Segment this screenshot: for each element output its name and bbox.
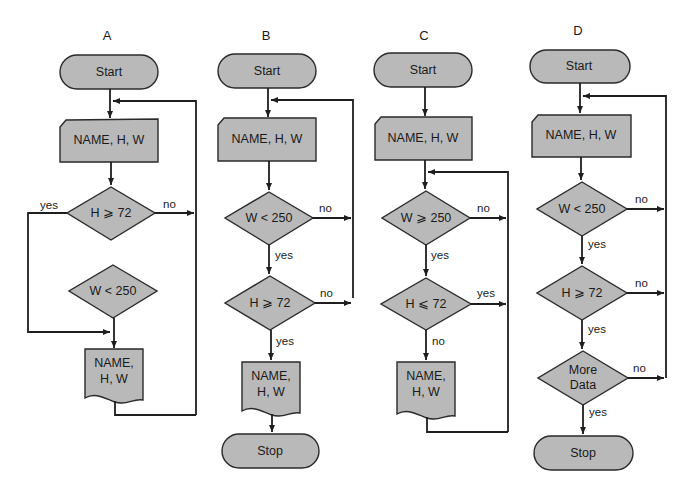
- flowchart-c-title: C: [419, 28, 428, 43]
- decision-label: W < 250: [90, 284, 137, 298]
- no-label: no: [635, 277, 648, 289]
- flowchart-b: B Start NAME, H, W W < 250 no yes H ⩾ 72…: [218, 28, 353, 468]
- return-line: [427, 417, 508, 432]
- flowchart-d: D Start NAME, H, W W < 250 no yes H ⩾ 72…: [530, 23, 666, 470]
- output-label-line2: H, W: [412, 385, 440, 399]
- output-label-line1: NAME,: [251, 369, 291, 383]
- no-label: no: [319, 202, 332, 214]
- flowchart-canvas: A Start NAME, H, W H ⩾ 72 yes no W < 250…: [0, 0, 694, 493]
- yes-label: yes: [589, 406, 607, 418]
- decision-label: H ⩾ 72: [91, 206, 132, 220]
- flowchart-d-title: D: [573, 23, 582, 38]
- no-label: no: [320, 287, 333, 299]
- no-label: no: [633, 362, 646, 374]
- flowchart-a: A Start NAME, H, W H ⩾ 72 yes no W < 250…: [28, 28, 196, 415]
- yes-label: yes: [588, 323, 606, 335]
- decision-label-line2: Data: [570, 378, 596, 392]
- input-label: NAME, H, W: [388, 131, 459, 145]
- output-label-line2: H, W: [100, 372, 128, 386]
- output-label-line1: NAME,: [406, 369, 446, 383]
- decision-label: W < 250: [246, 211, 293, 225]
- input-label: NAME, H, W: [232, 132, 303, 146]
- stop-label: Stop: [570, 446, 596, 460]
- output-label-line2: H, W: [257, 385, 285, 399]
- output-label-line1: NAME,: [94, 356, 134, 370]
- start-label: Start: [254, 64, 281, 78]
- decision-label: W ⩾ 250: [401, 211, 452, 225]
- stop-label: Stop: [257, 444, 283, 458]
- no-label: no: [163, 198, 176, 210]
- yes-label: yes: [275, 249, 293, 261]
- start-label: Start: [410, 63, 437, 77]
- flowchart-b-title: B: [262, 28, 271, 43]
- yes-label: yes: [276, 335, 294, 347]
- return-line: [115, 401, 196, 415]
- no-label: no: [635, 193, 648, 205]
- input-label: NAME, H, W: [74, 133, 145, 147]
- flowchart-a-title: A: [103, 28, 112, 43]
- start-label: Start: [566, 59, 593, 73]
- decision-label: H ⩾ 72: [250, 296, 291, 310]
- yes-label: yes: [40, 199, 58, 211]
- no-label: no: [432, 335, 445, 347]
- no-label: no: [477, 202, 490, 214]
- decision-label-line1: More: [569, 363, 598, 377]
- decision-label: H ⩽ 72: [406, 297, 447, 311]
- flowchart-c: C Start NAME, H, W W ⩾ 250 no yes H ⩽ 72…: [374, 28, 508, 432]
- decision-label: W < 250: [559, 202, 606, 216]
- yes-label: yes: [431, 249, 449, 261]
- yes-label: yes: [588, 238, 606, 250]
- decision-label: H ⩾ 72: [562, 286, 603, 300]
- yes-label: yes: [477, 287, 495, 299]
- start-label: Start: [96, 65, 123, 79]
- input-label: NAME, H, W: [546, 128, 617, 142]
